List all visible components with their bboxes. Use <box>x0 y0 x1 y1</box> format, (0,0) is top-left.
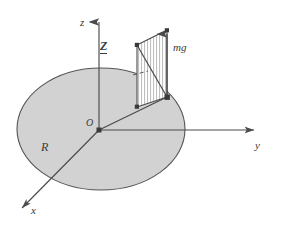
radius-label: R <box>41 141 48 153</box>
weight-mg-label: mg <box>173 42 186 53</box>
origin-label: O <box>86 118 93 128</box>
y-axis-label: y <box>255 140 260 151</box>
x-axis-label: x <box>31 205 36 216</box>
plane-base-left-marker <box>135 105 139 109</box>
rim-point-marker <box>165 95 170 100</box>
origin-point-marker <box>97 128 102 133</box>
diagram-canvas <box>0 0 285 229</box>
physics-diagram-figure: z y x O R Z mg <box>0 0 285 229</box>
force-plane-shape <box>137 30 167 107</box>
force-z-label: Z <box>100 40 107 54</box>
plane-top-left-marker <box>135 43 139 47</box>
plane-top-right-marker <box>165 28 169 32</box>
z-axis-label: z <box>80 17 84 28</box>
